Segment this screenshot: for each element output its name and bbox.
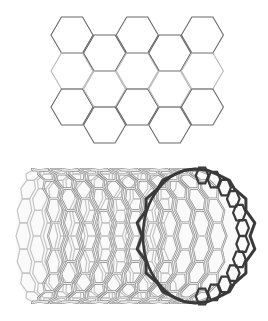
- carbon-nanotube: [16, 168, 255, 305]
- nanotube-figure: [0, 0, 268, 321]
- graphene-sheet: [51, 17, 223, 143]
